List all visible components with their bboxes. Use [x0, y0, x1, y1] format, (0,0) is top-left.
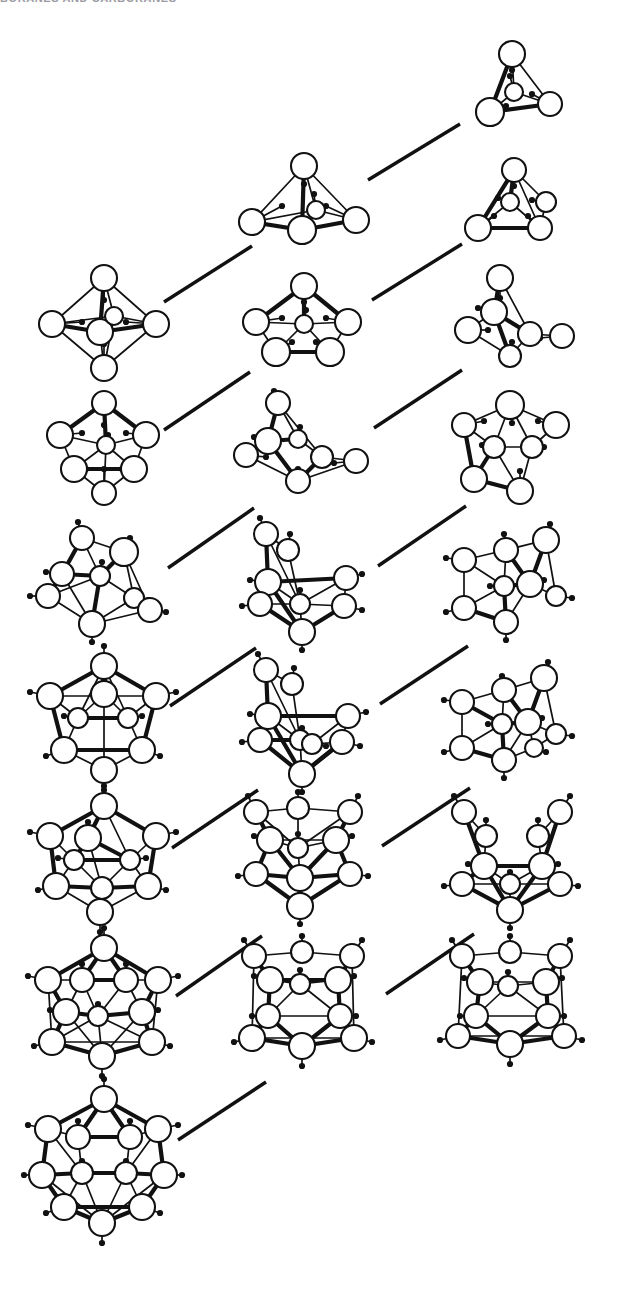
boron-atom [452, 413, 476, 437]
hydrogen-atom [561, 1013, 567, 1019]
hydrogen-atom [21, 1172, 27, 1178]
boron-atom [143, 311, 169, 337]
hydrogen-atom [575, 883, 581, 889]
hydrogen-atom [163, 609, 169, 615]
boron-atom [492, 714, 512, 734]
boron-atom [499, 345, 521, 367]
boron-atom [244, 800, 268, 824]
boron-atom [110, 538, 138, 566]
connector-line [372, 244, 462, 300]
hydrogen-atom [27, 593, 33, 599]
cluster-structure [476, 41, 562, 126]
hydrogen-atom [485, 327, 491, 333]
boron-atom [502, 158, 526, 182]
boron-atom [499, 941, 521, 963]
boron-atom [450, 944, 474, 968]
hydrogen-atom [25, 973, 31, 979]
hydrogen-atom [239, 739, 245, 745]
boron-atom [496, 391, 524, 419]
boron-atom [302, 734, 322, 754]
hydrogen-atom [365, 873, 371, 879]
boron-atom [538, 92, 562, 116]
boron-atom [307, 201, 325, 219]
hydrogen-atom [437, 1037, 443, 1043]
boron-atom [288, 838, 308, 858]
hydrogen-atom [485, 721, 491, 727]
hydrogen-atom [167, 1043, 173, 1049]
boron-atom [97, 436, 115, 454]
connector-line [164, 246, 252, 302]
hydrogen-atom [127, 1118, 133, 1124]
boron-atom [151, 1162, 177, 1188]
boron-atom [332, 594, 356, 618]
boron-atom [552, 1024, 576, 1048]
boron-atom [129, 999, 155, 1025]
boron-atom [254, 658, 278, 682]
boron-atom [91, 355, 117, 381]
boron-atom [452, 548, 476, 572]
boron-atom [316, 338, 344, 366]
boron-atom [311, 446, 333, 468]
boron-atom [129, 737, 155, 763]
boron-atom [289, 1033, 315, 1059]
hydrogen-atom [501, 775, 507, 781]
boron-atom [115, 1162, 137, 1184]
boron-atom [452, 800, 476, 824]
cluster-structure [441, 659, 575, 781]
boron-atom [37, 683, 63, 709]
boron-atom [497, 1031, 523, 1057]
boron-vertices [452, 527, 566, 634]
hydrogen-atom [443, 609, 449, 615]
boron-atom [239, 209, 265, 235]
hydrogen-atom [529, 197, 535, 203]
hydrogen-atom [157, 753, 163, 759]
boron-atom [262, 338, 290, 366]
boron-atom [494, 538, 518, 562]
boron-atom [498, 976, 518, 996]
boron-atom [47, 422, 73, 448]
connector-line [178, 1082, 266, 1140]
boron-atom [39, 1029, 65, 1055]
boron-atom [92, 391, 116, 415]
boron-atom [494, 610, 518, 634]
boron-atom [70, 526, 94, 550]
boron-atom [120, 850, 140, 870]
boron-atom [35, 967, 61, 993]
boron-atom [133, 422, 159, 448]
boron-atom [239, 1025, 265, 1051]
boron-atom [517, 571, 543, 597]
boron-atom [242, 944, 266, 968]
cluster-structure [441, 793, 581, 931]
boron-atom [290, 594, 310, 614]
boron-atom [330, 730, 354, 754]
boron-atom [145, 967, 171, 993]
hydrogen-atom [241, 937, 247, 943]
boron-atom [536, 1004, 560, 1028]
boron-atom [89, 1210, 115, 1236]
boron-atom [483, 436, 505, 458]
boron-atom [533, 969, 559, 995]
boron-atom [79, 611, 105, 637]
hydrogen-atom [163, 887, 169, 893]
hydrogen-atom [175, 1122, 181, 1128]
hydrogen-atom [481, 418, 487, 424]
hydrogen-atom [43, 1210, 49, 1216]
hydrogen-atom [441, 883, 447, 889]
boron-atom [289, 761, 315, 787]
boron-atom [287, 893, 313, 919]
boron-atom [450, 872, 474, 896]
boron-atom [450, 736, 474, 760]
boron-vertices [446, 941, 576, 1057]
hydrogen-atom [101, 925, 107, 931]
hydrogen-atom [297, 967, 303, 973]
boron-atom [248, 592, 272, 616]
connector-line [374, 370, 462, 428]
boron-atom [325, 967, 351, 993]
boron-atom [494, 576, 514, 596]
hydrogen-atom [31, 1043, 37, 1049]
boron-atom [546, 724, 566, 744]
hydrogen-atom [123, 430, 129, 436]
boron-atom [335, 309, 361, 335]
boron-atom [105, 307, 123, 325]
boron-atom [289, 430, 307, 448]
